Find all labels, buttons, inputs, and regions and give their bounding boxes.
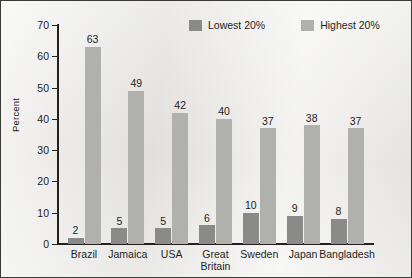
y-tick-label: 70 [37, 20, 49, 31]
y-tick-label: 50 [37, 82, 49, 93]
bar-value-label: 37 [350, 116, 362, 127]
y-tick-mark [52, 150, 58, 151]
legend-swatch-highest [301, 20, 314, 31]
bar-chart-figure: Percent 010203040506070 2635495426401037… [0, 0, 412, 278]
bar-value-label: 5 [160, 216, 166, 227]
bar-value-label: 63 [87, 34, 99, 45]
legend-label-lowest: Lowest 20% [208, 20, 265, 31]
bar-highest: 40 [216, 119, 232, 244]
bar-value-label: 9 [292, 203, 298, 214]
y-tick-label: 40 [37, 114, 49, 125]
bar-group: 263 [68, 25, 101, 244]
y-tick-label: 0 [43, 239, 49, 250]
bar-value-label: 37 [262, 116, 274, 127]
bar-highest: 37 [260, 128, 276, 244]
y-tick-mark [52, 88, 58, 89]
y-tick-label: 20 [37, 176, 49, 187]
bar-highest: 38 [304, 125, 320, 244]
y-tick-mark [52, 119, 58, 120]
bar-lowest: 6 [199, 225, 215, 244]
y-tick-label: 30 [37, 145, 49, 156]
legend-swatch-lowest [189, 20, 202, 31]
bar-lowest: 8 [331, 219, 347, 244]
bar-group: 542 [155, 25, 188, 244]
y-tick-mark [52, 25, 58, 26]
bar-highest: 63 [85, 47, 101, 244]
bar-highest: 37 [348, 128, 364, 244]
y-tick-label: 60 [37, 51, 49, 62]
bar-value-label: 8 [336, 206, 342, 217]
y-tick-mark [52, 56, 58, 57]
bar-value-label: 5 [116, 216, 122, 227]
bar-lowest: 2 [68, 238, 84, 244]
y-tick-mark [52, 244, 58, 245]
bar-group: 837 [331, 25, 364, 244]
bar-value-label: 49 [130, 78, 142, 89]
chart-legend: Lowest 20% Highest 20% [189, 20, 380, 31]
legend-item-lowest: Lowest 20% [189, 20, 265, 31]
bar-group: 640 [199, 25, 232, 244]
bar-value-label: 38 [306, 113, 318, 124]
legend-label-highest: Highest 20% [320, 20, 380, 31]
category-label: Bangladesh [307, 249, 387, 261]
y-tick-mark [52, 213, 58, 214]
bar-value-label: 6 [204, 213, 210, 224]
bar-group: 549 [111, 25, 144, 244]
bar-value-label: 42 [174, 100, 186, 111]
y-tick-mark [52, 181, 58, 182]
bar-lowest: 10 [243, 213, 259, 244]
bar-lowest: 5 [111, 228, 127, 244]
bar-lowest: 9 [287, 216, 303, 244]
y-axis-title: Percent [10, 98, 21, 132]
bar-value-label: 10 [245, 200, 257, 211]
bar-value-label: 40 [218, 106, 230, 117]
plot-area: 010203040506070 2635495426401037938837 [58, 25, 373, 244]
bar-value-label: 2 [73, 225, 79, 236]
bar-highest: 49 [128, 91, 144, 244]
legend-item-highest: Highest 20% [301, 20, 380, 31]
y-tick-label: 10 [37, 207, 49, 218]
bar-group: 938 [287, 25, 320, 244]
bar-lowest: 5 [155, 228, 171, 244]
bar-group: 1037 [243, 25, 276, 244]
bar-highest: 42 [172, 113, 188, 244]
